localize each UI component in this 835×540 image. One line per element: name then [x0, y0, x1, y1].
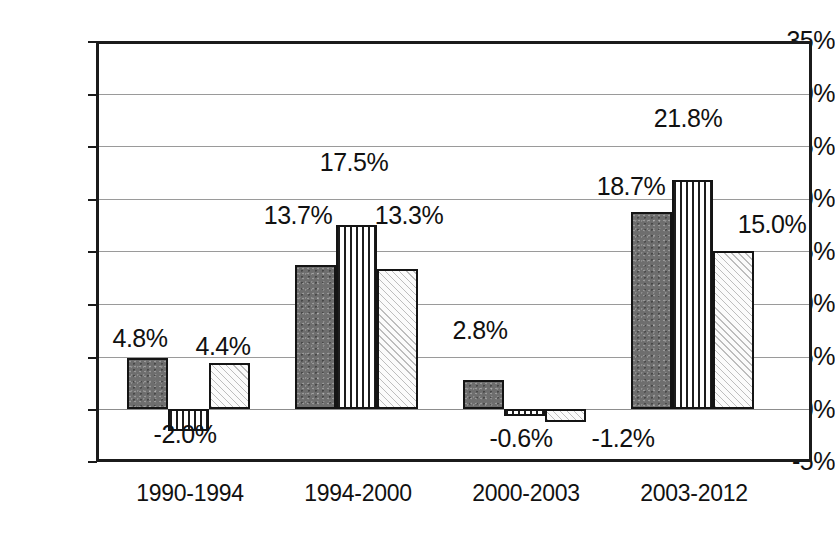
- data-label-g2-s1: 13.7%: [238, 203, 358, 228]
- x-axis-tick-label: 2003-2012: [614, 482, 774, 505]
- x-axis-tick-label: 1994-2000: [278, 482, 438, 505]
- data-label-g1-s2: -2.0%: [130, 422, 240, 447]
- bar-g1-s1: [127, 358, 168, 409]
- x-axis-tick-label: 2000-2003: [446, 482, 606, 505]
- bar-chart: 35% 30% 25% 20% 15% 10% 5% 0% -5%: [0, 0, 835, 540]
- bar-g2-s2: [336, 225, 377, 409]
- bar-g4-s1: [631, 212, 672, 409]
- bar-g3-s1: [463, 380, 504, 409]
- gridline-25: [99, 146, 809, 147]
- bar-g2-s1: [295, 265, 336, 409]
- data-label-g2-s2: 17.5%: [294, 150, 414, 175]
- x-axis-tick-label: 1990-1994: [110, 482, 270, 505]
- bar-g3-s2: [504, 409, 545, 416]
- data-label-g4-s2: 21.8%: [628, 106, 748, 131]
- data-label-g1-s3: 4.4%: [168, 334, 278, 359]
- data-label-g3-s2: -0.6%: [466, 426, 576, 451]
- bar-g4-s2: [672, 180, 713, 409]
- scan-noise-strip: [0, 508, 835, 540]
- bar-g4-s3: [713, 251, 754, 409]
- data-label-g4-s3: 15.0%: [712, 212, 832, 237]
- bar-g2-s3: [377, 269, 418, 409]
- data-label-g3-s3: -1.2%: [568, 426, 678, 451]
- data-label-g4-s1: 18.7%: [571, 174, 691, 199]
- bar-g1-s3: [209, 363, 250, 409]
- data-label-g3-s1: 2.8%: [425, 318, 535, 343]
- gridline-30: [99, 94, 809, 95]
- data-label-g2-s3: 13.3%: [349, 203, 469, 228]
- bar-g3-s3: [545, 409, 586, 422]
